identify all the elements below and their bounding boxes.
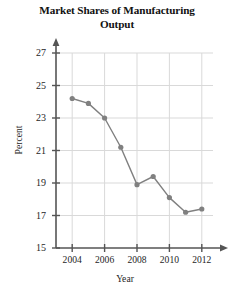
data-point-marker [70,96,75,101]
y-axis-tick-label: 21 [24,146,46,156]
y-axis-tick-label: 15 [24,243,46,253]
y-axis-tick-label: 19 [24,178,46,188]
y-axis-tick-label: 23 [24,113,46,123]
data-point-marker [86,101,91,106]
data-point-marker [102,115,107,120]
data-point-marker [167,195,172,200]
x-axis-tick-label: 2008 [120,255,154,265]
x-axis-tick-label: 2006 [88,255,122,265]
chart-figure: Market Shares of Manufacturing Output 15… [0,0,234,297]
data-point-marker [183,210,188,215]
y-axis-tick-label: 27 [24,48,46,58]
data-point-marker [151,174,156,179]
x-axis-title: Year [95,274,155,284]
x-axis-tick-label: 2004 [55,255,89,265]
y-axis-tick-label: 25 [24,81,46,91]
y-axis-title: Percent [14,105,24,175]
x-axis-arrow-icon [220,245,228,252]
y-axis-arrow-icon [53,38,60,46]
data-point-marker [118,145,123,150]
horizontal-gridlines [56,53,213,216]
plot-area: 15171921232527 20042006200820102012 Perc… [0,0,234,297]
y-axis-tick-label: 17 [24,211,46,221]
data-point-marker [199,206,204,211]
x-axis-tick-label: 2010 [152,255,186,265]
x-axis-tick-label: 2012 [185,255,219,265]
data-point-marker [134,182,139,187]
